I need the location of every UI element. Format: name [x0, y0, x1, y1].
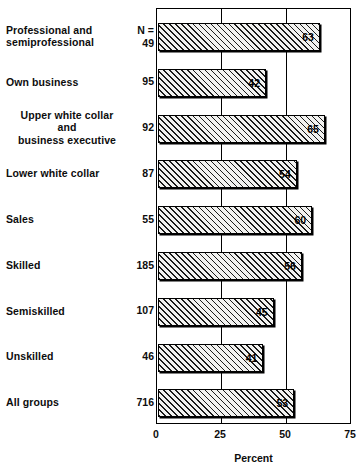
n-value: 46 — [118, 350, 154, 363]
xtick-label-75: 75 — [335, 428, 359, 440]
bar-value-label: 45 — [255, 306, 269, 317]
category-label: Sales — [6, 213, 128, 226]
category-label-line: Professional and — [6, 24, 128, 37]
n-value: 87 — [118, 167, 154, 180]
category-label-line: semiprofessional — [6, 36, 128, 49]
xtick-label-0: 0 — [141, 428, 171, 440]
category-label: Upper white collarandbusiness executive — [6, 109, 128, 147]
category-label-line: Sales — [6, 213, 128, 226]
x-axis-title: Percent — [156, 452, 351, 464]
bar-value-label: 56 — [283, 261, 297, 272]
category-label: Lower white collar — [6, 167, 128, 180]
category-label: Unskilled — [6, 350, 128, 363]
category-label-line: Unskilled — [6, 350, 128, 363]
category-label-line: and — [6, 121, 128, 134]
bar: 63 — [158, 23, 319, 51]
category-label: Own business — [6, 76, 128, 89]
category-label: All groups — [6, 396, 128, 409]
bar: 65 — [158, 115, 325, 143]
category-label-line: Skilled — [6, 259, 128, 272]
bar-value-label: 54 — [278, 169, 292, 180]
n-value: 716 — [118, 396, 154, 409]
bar-value-label: 63 — [301, 32, 315, 43]
category-label: Semiskilled — [6, 305, 128, 318]
n-value: 49 — [118, 37, 154, 50]
xtick-label-25: 25 — [205, 428, 235, 440]
n-value: 55 — [118, 213, 154, 226]
bar: 54 — [158, 160, 296, 188]
category-label-line: business executive — [6, 134, 128, 147]
bar-value-label: 60 — [293, 215, 307, 226]
xtick-label-50: 50 — [270, 428, 300, 440]
bar-value-label: 65 — [306, 123, 320, 134]
bar-value-label: 41 — [245, 352, 259, 363]
bar: 56 — [158, 252, 302, 280]
plot-area: 634265546056454153 — [156, 8, 351, 424]
n-value: 107 — [118, 304, 154, 317]
bar: 42 — [158, 69, 266, 97]
bar: 45 — [158, 298, 273, 326]
bar-value-label: 53 — [276, 398, 290, 409]
category-label-line: Upper white collar — [6, 109, 128, 122]
horizontal-bar-chart: 634265546056454153 0 25 50 75 Percent Pr… — [0, 0, 359, 474]
n-header-label: N = — [118, 24, 154, 37]
n-value: 185 — [118, 259, 154, 272]
category-label: Skilled — [6, 259, 128, 272]
category-label-line: Semiskilled — [6, 305, 128, 318]
category-label-line: Own business — [6, 76, 128, 89]
category-label: Professional andsemiprofessional — [6, 24, 128, 49]
category-label-line: Lower white collar — [6, 167, 128, 180]
n-value: 92 — [118, 121, 154, 134]
bar: 41 — [158, 344, 263, 372]
bar: 60 — [158, 206, 312, 234]
bar: 53 — [158, 389, 294, 417]
n-value: 95 — [118, 75, 154, 88]
bar-value-label: 42 — [247, 77, 261, 88]
category-label-line: All groups — [6, 396, 128, 409]
